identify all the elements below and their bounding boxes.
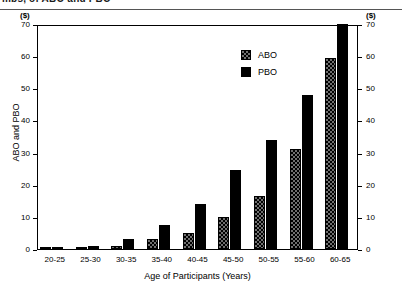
bar-pbo-20-25 — [52, 247, 63, 249]
bar-group — [181, 26, 217, 249]
y-tick-label-right-0: 0 — [366, 246, 370, 254]
bar-pbo-45-50 — [230, 170, 241, 249]
bar-abo-40-45 — [183, 233, 194, 249]
bar-pbo-55-60 — [302, 95, 313, 249]
y-tick-right-40 — [358, 121, 362, 122]
y-tick-label-right-30: 30 — [366, 150, 375, 158]
y-axis-title: ABO and PBO — [12, 85, 21, 181]
bar-group — [323, 26, 359, 249]
y-tick-right-70 — [358, 25, 362, 26]
y-tick-label-left-70: 70 — [21, 21, 30, 29]
legend-item-abo: ABO — [241, 48, 317, 65]
y-tick-right-0 — [358, 250, 362, 251]
bar-pbo-50-55 — [266, 140, 277, 249]
y-axis-left-unit: ($) — [20, 12, 30, 20]
y-tick-label-left-20: 20 — [21, 182, 30, 190]
y-tick-label-left-0: 0 — [26, 246, 30, 254]
x-tick-label-50-55: 50-55 — [249, 256, 289, 264]
bar-abo-45-50 — [218, 217, 229, 249]
bar-group — [38, 26, 74, 249]
bar-pbo-35-40 — [159, 225, 170, 249]
y-tick-label-right-10: 10 — [366, 214, 375, 222]
x-tick-label-30-35: 30-35 — [106, 256, 146, 264]
bar-abo-20-25 — [40, 247, 51, 249]
bar-abo-50-55 — [254, 196, 265, 249]
legend-swatch-abo-icon — [241, 50, 251, 60]
y-tick-left-30 — [33, 154, 37, 155]
x-tick-label-25-30: 25-30 — [71, 256, 111, 264]
bar-abo-30-35 — [111, 246, 122, 249]
x-tick-label-60-65: 60-65 — [320, 256, 360, 264]
y-tick-label-left-40: 40 — [21, 117, 30, 125]
plot-area: ABO PBO — [37, 25, 358, 250]
x-tick-label-45-50: 45-50 — [213, 256, 253, 264]
bar-abo-60-65 — [325, 58, 336, 249]
bar-pbo-25-30 — [88, 246, 99, 249]
y-tick-label-right-20: 20 — [366, 182, 375, 190]
y-tick-label-right-60: 60 — [366, 53, 375, 61]
bar-pbo-40-45 — [195, 204, 206, 249]
y-tick-right-50 — [358, 89, 362, 90]
bar-chart-figure: ($) ($) ABO and PBO ABO PBO 001010202030… — [0, 10, 402, 289]
chart-legend: ABO PBO — [241, 48, 317, 82]
y-tick-label-left-30: 30 — [21, 150, 30, 158]
y-axis-right-unit: ($) — [366, 12, 376, 20]
bar-group — [109, 26, 145, 249]
bar-group — [145, 26, 181, 249]
x-axis-title: Age of Participants (Years) — [37, 272, 358, 281]
bar-abo-25-30 — [76, 247, 87, 249]
y-tick-left-20 — [33, 186, 37, 187]
y-tick-left-60 — [33, 57, 37, 58]
x-tick-label-20-25: 20-25 — [35, 256, 75, 264]
x-tick-label-40-45: 40-45 — [178, 256, 218, 264]
x-tick-label-35-40: 35-40 — [142, 256, 182, 264]
y-tick-left-50 — [33, 89, 37, 90]
y-tick-label-right-50: 50 — [366, 85, 375, 93]
page-header: mbs, of ABO and PBO — [0, 0, 402, 5]
y-tick-label-right-70: 70 — [366, 21, 375, 29]
y-tick-left-40 — [33, 121, 37, 122]
legend-swatch-pbo-icon — [241, 67, 251, 77]
y-tick-label-left-60: 60 — [21, 53, 30, 61]
x-tick-label-55-60: 55-60 — [285, 256, 325, 264]
bar-abo-35-40 — [147, 239, 158, 249]
y-tick-left-70 — [33, 25, 37, 26]
y-tick-right-60 — [358, 57, 362, 58]
y-tick-right-20 — [358, 186, 362, 187]
bar-pbo-30-35 — [123, 239, 134, 249]
legend-label-pbo: PBO — [258, 67, 277, 77]
y-tick-label-left-10: 10 — [21, 214, 30, 222]
page-header-text: mbs, of ABO and PBO — [2, 0, 111, 4]
bar-abo-55-60 — [290, 149, 301, 249]
y-tick-right-10 — [358, 218, 362, 219]
bar-group — [74, 26, 110, 249]
y-tick-left-10 — [33, 218, 37, 219]
bar-pbo-60-65 — [337, 24, 348, 249]
legend-item-pbo: PBO — [241, 65, 317, 82]
y-tick-label-left-50: 50 — [21, 85, 30, 93]
y-tick-right-30 — [358, 154, 362, 155]
y-tick-label-right-40: 40 — [366, 117, 375, 125]
legend-label-abo: ABO — [258, 50, 277, 60]
y-tick-left-0 — [33, 250, 37, 251]
